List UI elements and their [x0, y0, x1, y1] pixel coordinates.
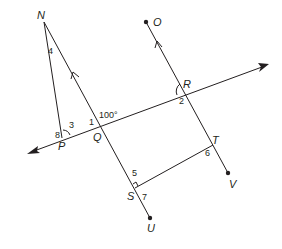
angle-label-100: 100° [99, 110, 118, 120]
angle-label-3: 3 [69, 120, 74, 130]
angle-label-1: 1 [89, 117, 94, 127]
angle-arc-3 [63, 130, 70, 135]
angle-label-7: 7 [142, 192, 147, 202]
geometry-figure: N O R Q P T S U V 1 100° 2 3 4 5 6 7 8 [0, 0, 282, 249]
angle-label-2: 2 [179, 96, 184, 106]
diagram-canvas: N O R Q P T S U V 1 100° 2 3 4 5 6 7 8 [0, 0, 282, 249]
label-q: Q [93, 131, 102, 143]
line-pqr [34, 67, 262, 151]
label-t: T [212, 134, 220, 146]
label-p: P [58, 140, 66, 152]
label-r: R [183, 78, 191, 90]
parallel-arrow-icon [71, 72, 79, 79]
angle-label-4: 4 [48, 46, 53, 56]
angle-label-8: 8 [55, 130, 60, 140]
point-u-dot [148, 216, 152, 220]
label-o: O [153, 16, 162, 28]
segment-st [135, 145, 213, 188]
point-o-dot [144, 20, 148, 24]
label-v: V [229, 178, 238, 190]
angle-arc-2 [176, 84, 180, 95]
angle-label-5: 5 [132, 168, 137, 178]
label-u: U [147, 222, 155, 234]
label-s: S [127, 190, 135, 202]
segment-nu [44, 22, 150, 218]
right-angle-mark [133, 182, 138, 186]
point-v-dot [226, 171, 230, 175]
angle-label-6: 6 [205, 148, 210, 158]
label-n: N [37, 9, 45, 21]
segment-ov [146, 22, 228, 173]
